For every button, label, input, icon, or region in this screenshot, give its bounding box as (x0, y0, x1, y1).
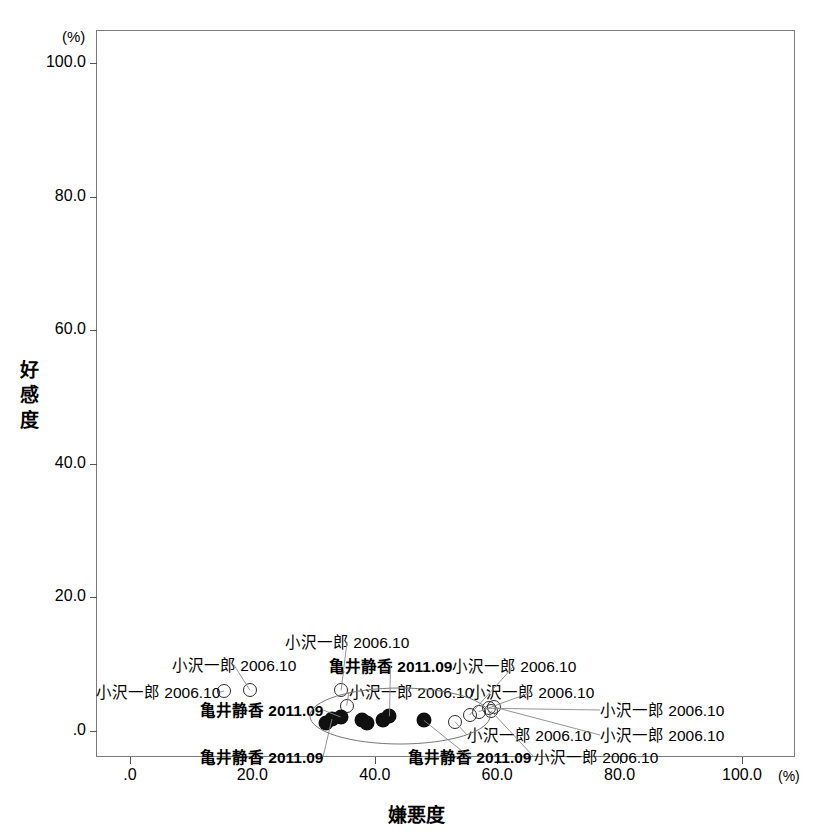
y-axis-title-char-2: 感 (16, 383, 42, 408)
x-axis-tick-label: 100.0 (722, 766, 762, 784)
point-label: 小沢一郎 2006.10 (96, 684, 220, 701)
x-axis-tick-label: 60.0 (482, 766, 513, 784)
x-axis-tick-mark (130, 757, 131, 764)
point-label: 亀井静香 2011.09 (329, 658, 452, 675)
point-label: 小沢一郎 2006.10 (285, 634, 409, 651)
data-point (487, 700, 501, 714)
y-axis-tick-label: 40.0 (40, 454, 86, 472)
x-axis-tick-mark (742, 757, 743, 764)
scatter-chart-figure: (%) (%) 好 感 度 嫌悪度 .020.040.060.080.0100.… (0, 0, 823, 836)
y-axis-tick-label: 100.0 (40, 53, 86, 71)
data-point (243, 683, 257, 697)
point-label: 亀井静香 2011.09 (200, 749, 323, 766)
data-point (448, 715, 462, 729)
x-axis-unit-label: (%) (778, 768, 800, 784)
y-axis-tick-mark (90, 731, 97, 732)
point-label: 小沢一郎 2006.10 (600, 727, 724, 744)
point-label: 亀井静香 2011.09 (200, 702, 323, 719)
x-axis-tick-mark (375, 757, 376, 764)
point-label: 小沢一郎 2006.10 (172, 657, 296, 674)
plot-area (96, 30, 795, 757)
x-axis-tick-label: 80.0 (604, 766, 635, 784)
y-axis-tick-mark (90, 63, 97, 64)
data-point (416, 713, 431, 728)
y-axis-title-char-3: 度 (16, 408, 42, 433)
point-label: 小沢一郎 2006.10 (467, 727, 591, 744)
y-axis-tick-label: 80.0 (40, 187, 86, 205)
point-label: 小沢一郎 2006.10 (534, 749, 658, 766)
y-axis-title: 好 感 度 (16, 358, 42, 433)
y-axis-unit-label: (%) (62, 28, 85, 45)
y-axis-tick-label: 20.0 (40, 587, 86, 605)
x-axis-title: 嫌悪度 (0, 800, 823, 827)
point-label: 亀井静香 2011.09 (408, 749, 531, 766)
x-axis-tick-label: .0 (123, 766, 136, 784)
data-point (382, 709, 397, 724)
data-point (360, 715, 375, 730)
point-label: 小沢一郎 2006.10 (470, 684, 594, 701)
data-point (334, 683, 348, 697)
point-label: 小沢一郎 2006.10 (452, 658, 576, 675)
x-axis-tick-label: 40.0 (359, 766, 390, 784)
point-label: 小沢一郎 2006.10 (349, 684, 473, 701)
data-point (333, 709, 348, 724)
y-axis-tick-label: 60.0 (40, 320, 86, 338)
point-label: 小沢一郎 2006.10 (600, 702, 724, 719)
y-axis-tick-label: .0 (40, 721, 86, 739)
y-axis-tick-mark (90, 597, 97, 598)
y-axis-title-char-1: 好 (16, 358, 42, 383)
y-axis-tick-mark (90, 330, 97, 331)
x-axis-tick-label: 20.0 (237, 766, 268, 784)
y-axis-tick-mark (90, 464, 97, 465)
y-axis-tick-mark (90, 197, 97, 198)
